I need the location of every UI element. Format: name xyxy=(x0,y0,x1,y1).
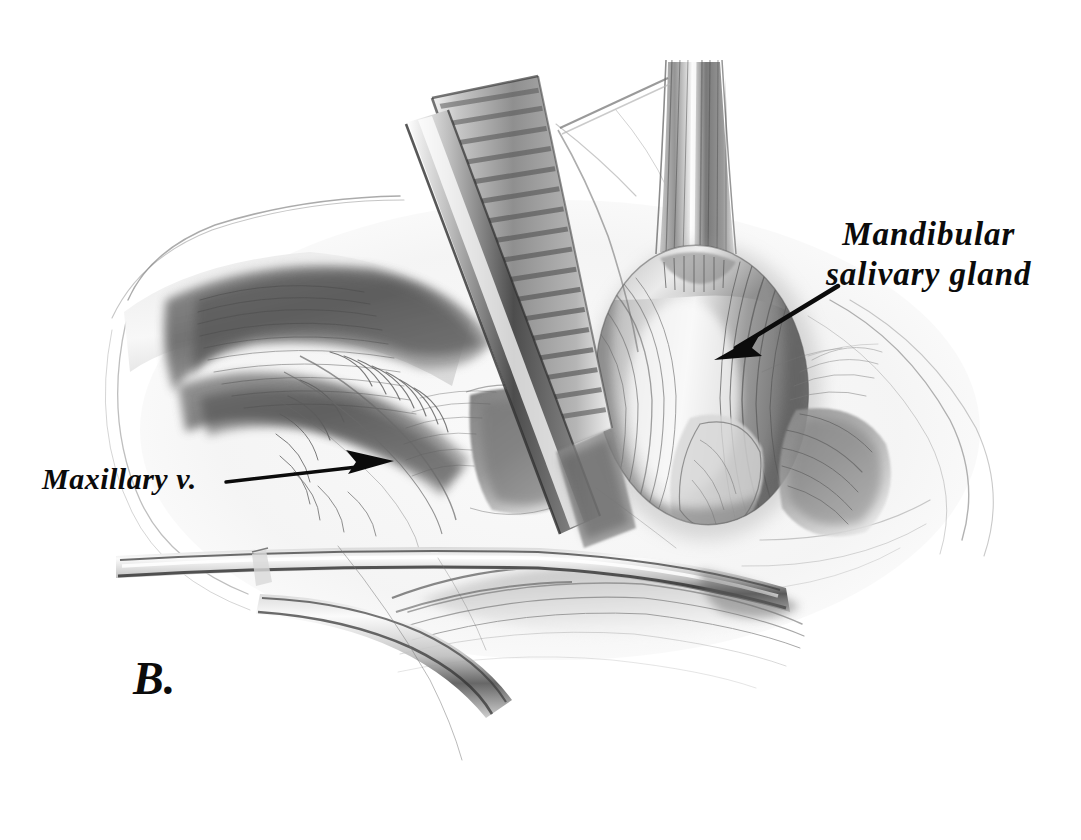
label-mandibular-salivary-gland: Mandibular salivary gland xyxy=(826,214,1032,295)
illustration-canvas xyxy=(0,0,1081,840)
panel-letter: B. xyxy=(133,651,175,707)
surgical-illustration-figure: Mandibular salivary gland Maxillary v. B… xyxy=(0,0,1081,840)
vessel-trunk xyxy=(656,58,736,256)
label-maxillary-vein: Maxillary v. xyxy=(42,461,197,498)
label-mandibular-line1: Mandibular xyxy=(826,214,1032,254)
label-mandibular-line2: salivary gland xyxy=(826,254,1032,294)
label-maxillary-line1: Maxillary v. xyxy=(42,461,197,498)
